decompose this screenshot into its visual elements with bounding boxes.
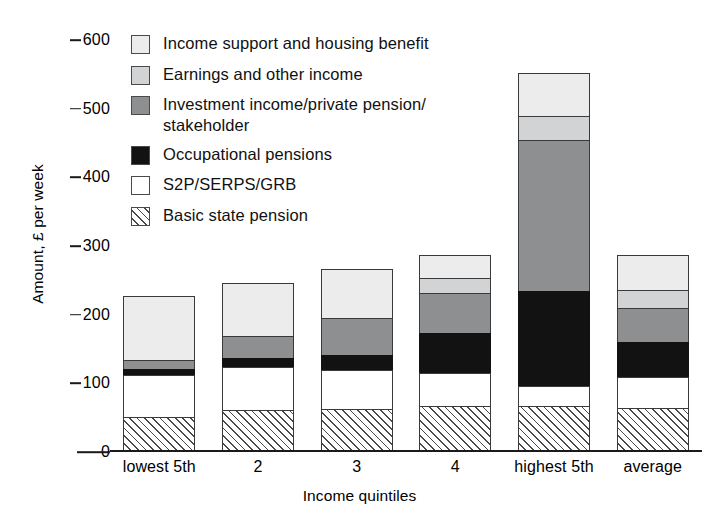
segment-income_support[interactable] bbox=[123, 296, 195, 360]
segment-s2p[interactable] bbox=[617, 377, 689, 409]
legend-item-earnings[interactable]: Earnings and other income bbox=[131, 64, 551, 86]
y-tick-mark bbox=[77, 451, 110, 453]
segment-s2p[interactable] bbox=[222, 367, 294, 410]
segment-occupational[interactable] bbox=[222, 358, 294, 368]
legend-label: Investment income/private pension/stakeh… bbox=[163, 94, 426, 135]
legend-swatch-earnings-icon bbox=[131, 66, 150, 85]
legend-label: S2P/SERPS/GRB bbox=[163, 174, 296, 195]
y-axis-ticks: 0100200300400500600 bbox=[0, 0, 110, 532]
segment-income_support[interactable] bbox=[419, 255, 491, 278]
bar-3[interactable] bbox=[321, 269, 393, 450]
segment-occupational[interactable] bbox=[321, 355, 393, 370]
x-tick-label: average bbox=[623, 458, 682, 476]
segment-income_support[interactable] bbox=[222, 283, 294, 337]
segment-investment[interactable] bbox=[123, 360, 195, 369]
legend-swatch-basic-icon bbox=[131, 207, 150, 226]
segment-basic[interactable] bbox=[222, 410, 294, 450]
y-tick-mark bbox=[70, 383, 81, 385]
segment-occupational[interactable] bbox=[518, 291, 590, 386]
segment-s2p[interactable] bbox=[123, 375, 195, 417]
x-axis-line bbox=[110, 450, 702, 452]
x-tick-label: 4 bbox=[451, 458, 460, 476]
segment-basic[interactable] bbox=[123, 417, 195, 451]
legend-label: Basic state pension bbox=[163, 205, 308, 226]
bar-2[interactable] bbox=[222, 283, 294, 451]
x-tick-label: highest 5th bbox=[514, 458, 593, 476]
x-axis-label: Income quintiles bbox=[0, 487, 719, 505]
segment-earnings[interactable] bbox=[617, 290, 689, 308]
bar-lowest-5th[interactable] bbox=[123, 296, 195, 450]
legend-item-basic[interactable]: Basic state pension bbox=[131, 205, 551, 227]
segment-earnings[interactable] bbox=[419, 278, 491, 293]
segment-investment[interactable] bbox=[419, 293, 491, 333]
y-tick-mark bbox=[70, 108, 81, 110]
bar-4[interactable] bbox=[419, 255, 491, 450]
segment-occupational[interactable] bbox=[419, 333, 491, 373]
segment-s2p[interactable] bbox=[419, 373, 491, 406]
segment-basic[interactable] bbox=[518, 406, 590, 451]
x-tick-label: lowest 5th bbox=[123, 458, 196, 476]
segment-investment[interactable] bbox=[222, 336, 294, 357]
legend-swatch-income-support-icon bbox=[131, 35, 150, 54]
bar-average[interactable] bbox=[617, 255, 689, 450]
segment-s2p[interactable] bbox=[321, 370, 393, 409]
y-tick-mark bbox=[70, 177, 81, 179]
legend-label: Occupational pensions bbox=[163, 144, 332, 165]
segment-s2p[interactable] bbox=[518, 386, 590, 405]
segment-occupational[interactable] bbox=[617, 342, 689, 376]
legend-item-investment[interactable]: Investment income/private pension/stakeh… bbox=[131, 94, 551, 135]
y-tick-mark bbox=[70, 39, 81, 41]
legend-item-s2p[interactable]: S2P/SERPS/GRB bbox=[131, 174, 551, 196]
legend-swatch-occupational-icon bbox=[131, 146, 150, 165]
segment-investment[interactable] bbox=[617, 308, 689, 342]
segment-income_support[interactable] bbox=[321, 269, 393, 318]
y-tick-mark bbox=[70, 314, 81, 316]
legend-item-occupational[interactable]: Occupational pensions bbox=[131, 144, 551, 166]
y-tick-mark bbox=[70, 245, 81, 247]
legend-swatch-s2p-icon bbox=[131, 176, 150, 195]
segment-income_support[interactable] bbox=[617, 255, 689, 290]
x-tick-label: 2 bbox=[254, 458, 263, 476]
chart-legend: Income support and housing benefitEarnin… bbox=[131, 33, 551, 235]
segment-basic[interactable] bbox=[321, 409, 393, 450]
legend-label: Earnings and other income bbox=[163, 64, 363, 85]
legend-label: Income support and housing benefit bbox=[163, 33, 429, 54]
segment-basic[interactable] bbox=[419, 406, 491, 451]
legend-item-income_support[interactable]: Income support and housing benefit bbox=[131, 33, 551, 55]
legend-swatch-investment-icon bbox=[131, 96, 150, 115]
segment-investment[interactable] bbox=[321, 318, 393, 354]
segment-occupational[interactable] bbox=[123, 369, 195, 374]
x-tick-label: 3 bbox=[352, 458, 361, 476]
chart-container: Amount, £ per week 0100200300400500600 l… bbox=[0, 0, 719, 532]
segment-basic[interactable] bbox=[617, 408, 689, 450]
